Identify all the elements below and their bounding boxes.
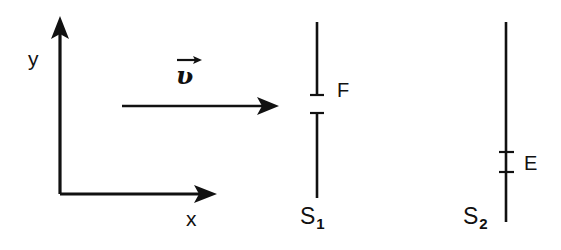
screen-s1-label: S1 <box>300 205 324 228</box>
region-e-label: E <box>524 153 537 173</box>
coordinate-axes <box>51 16 217 203</box>
screen-s2-label-subscript: 2 <box>479 215 487 232</box>
velocity-ray <box>122 97 279 115</box>
slit-f-label: F <box>337 80 349 100</box>
y-axis-label: y <box>28 48 39 69</box>
screen-s2-label-base: S <box>463 203 478 229</box>
screen-s2-label: S2 <box>463 205 487 228</box>
screen-s1 <box>310 22 324 198</box>
x-axis-label: x <box>186 208 197 229</box>
screen-s1-label-subscript: 1 <box>316 215 324 232</box>
screen-s1-label-base: S <box>300 203 315 229</box>
velocity-symbol: ʋ <box>176 63 193 88</box>
screen-s2 <box>499 22 514 222</box>
physics-diagram-canvas: y x ʋ F S1 E S2 <box>0 0 561 250</box>
